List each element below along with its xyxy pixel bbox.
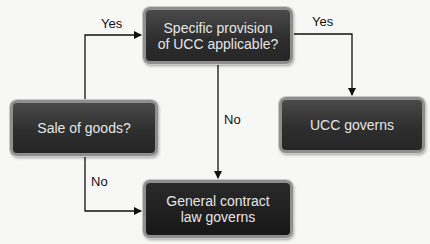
node-specific-provision-line1: Specific provision: [158, 20, 279, 36]
node-general-contract: General contract law governs: [143, 180, 293, 238]
edge-sale-to-specific: [85, 35, 141, 99]
edge-label-sale-to-specific: Yes: [101, 16, 122, 31]
node-general-contract-line1: General contract: [166, 193, 270, 209]
edge-label-specific-to-general: No: [224, 112, 241, 127]
node-specific-provision: Specific provision of UCC applicable?: [143, 7, 293, 64]
node-sale-of-goods-text: Sale of goods?: [37, 120, 130, 136]
edge-label-specific-to-ucc: Yes: [312, 14, 333, 29]
node-ucc-governs-text: UCC governs: [310, 117, 394, 133]
node-sale-of-goods: Sale of goods?: [10, 100, 158, 156]
edge-label-sale-to-general: No: [91, 174, 108, 189]
edge-specific-to-ucc: [293, 34, 352, 95]
node-specific-provision-line2: of UCC applicable?: [158, 36, 279, 52]
node-general-contract-line2: law governs: [166, 209, 270, 225]
node-ucc-governs: UCC governs: [279, 97, 425, 153]
